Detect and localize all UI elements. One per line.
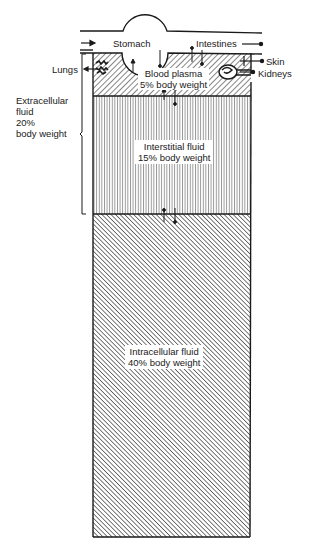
intestines-exit-arrow	[242, 42, 263, 45]
stomach-label: Stomach	[113, 38, 151, 49]
intestines-label: Intestines	[196, 38, 237, 49]
skin-label: Skin	[266, 56, 284, 67]
interstitial-share: 15% body weight	[138, 152, 210, 163]
lungs-label: Lungs	[52, 64, 78, 75]
intracellular-share: 40% body weight	[128, 357, 200, 368]
extracellular-brace	[80, 54, 86, 214]
interstitial-name: Interstitial fluid	[138, 141, 210, 152]
entry-arrow	[81, 41, 95, 46]
intracellular-compartment	[93, 214, 250, 537]
plasma-label: Blood plasma 5% body weight	[138, 68, 209, 90]
intracellular-label: Intracellular fluid 40% body weight	[125, 345, 203, 369]
extracellular-line-3: 20%	[16, 117, 68, 128]
kidneys-label: Kidneys	[258, 68, 292, 79]
extracellular-line-2: fluid	[16, 106, 68, 117]
plasma-share: 5% body weight	[140, 79, 207, 90]
extracellular-line-4: body weight	[16, 128, 68, 139]
intracellular-name: Intracellular fluid	[128, 346, 200, 357]
plasma-name: Blood plasma	[140, 68, 207, 79]
skin-arrow	[240, 56, 264, 66]
extracellular-label: Extracellular fluid 20% body weight	[16, 95, 68, 139]
interstitial-label: Interstitial fluid 15% body weight	[135, 140, 213, 164]
extracellular-line-1: Extracellular	[16, 95, 68, 106]
